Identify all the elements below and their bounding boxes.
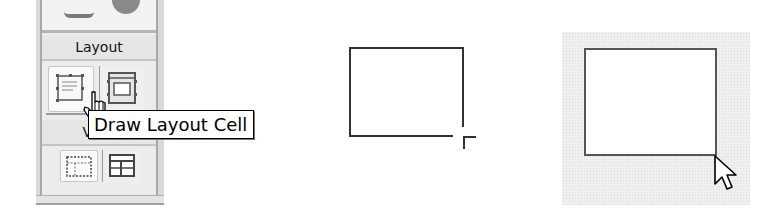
layout-cell[interactable]: [584, 48, 717, 156]
layout-view-button[interactable]: [102, 150, 140, 182]
partial-tool-icon[interactable]: [64, 0, 94, 18]
view-tools-row: [42, 148, 156, 184]
insert-panel: Layout: [36, 0, 164, 205]
cell-outline-bottom-edge: [349, 135, 453, 137]
top-icons-row: [42, 0, 156, 33]
arrow-pointer-icon: [713, 154, 739, 194]
layout-section-header: Layout: [42, 35, 156, 61]
cell-outline-in-progress: [349, 47, 464, 136]
cell-outline-right-edge: [462, 47, 464, 127]
panel-bottom-edge: [36, 195, 164, 205]
crosshair-vertical: [463, 136, 465, 149]
standard-view-icon: [61, 151, 97, 181]
standard-view-button[interactable]: [60, 150, 98, 182]
layout-header-label: Layout: [75, 39, 123, 55]
layout-view-icon: [103, 150, 139, 180]
draw-layout-cell-tooltip: Draw Layout Cell: [88, 110, 254, 139]
partial-tool-icon[interactable]: [112, 0, 140, 14]
tooltip-text: Draw Layout Cell: [94, 114, 247, 135]
insert-panel-body: Layout: [40, 0, 158, 198]
